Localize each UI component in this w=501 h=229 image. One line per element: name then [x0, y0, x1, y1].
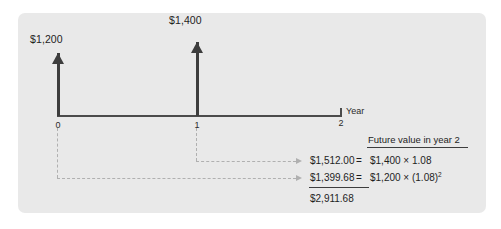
cash-flow-label-period-0: $1,200 [30, 33, 63, 45]
calc-row-2-expression: $1,200 × (1.08)2 [370, 172, 442, 184]
connector-vertical-period-0 [57, 128, 58, 178]
connector-horizontal-period-1 [196, 161, 296, 162]
timeline-tick-label-2: 2 [331, 118, 351, 128]
calc-row-1-equals: = [356, 155, 362, 167]
connector-arrow-head-icon-period-1 [296, 158, 302, 164]
total-rule [309, 187, 369, 188]
calc-row-2-expression-exponent: 2 [438, 171, 442, 178]
future-value-header-underline [367, 147, 468, 148]
arrow-shaft [196, 42, 199, 116]
timeline-axis [57, 115, 341, 117]
arrow-head-icon [191, 42, 203, 53]
calc-row-1-expression: $1,400 × 1.08 [370, 155, 431, 167]
connector-arrow-head-icon-period-0 [296, 175, 302, 181]
calc-row-2-future-value: $1,399.68 [310, 172, 355, 184]
connector-vertical-period-1 [196, 128, 197, 161]
calc-row-2-expression-base: $1,200 × (1.08) [370, 172, 438, 183]
figure-canvas: 0 1 2 Year $1,200 $1,400 Future value in… [0, 0, 501, 229]
calc-row-1-expression-base: $1,400 × 1.08 [370, 155, 431, 166]
timeline-tick-label-1: 1 [187, 120, 207, 130]
calc-row-2-equals: = [356, 172, 362, 184]
timeline-axis-label: Year [346, 106, 364, 117]
cash-flow-label-period-1: $1,400 [169, 14, 202, 26]
calc-row-1-future-value: $1,512.00 [310, 155, 355, 167]
total-future-value: $2,911.68 [310, 193, 354, 204]
timeline-tick-2 [340, 108, 342, 117]
connector-horizontal-period-0 [57, 178, 296, 179]
timeline-tick-label-0: 0 [48, 120, 68, 130]
arrow-head-icon [52, 53, 64, 64]
future-value-header: Future value in year 2 [368, 134, 460, 145]
